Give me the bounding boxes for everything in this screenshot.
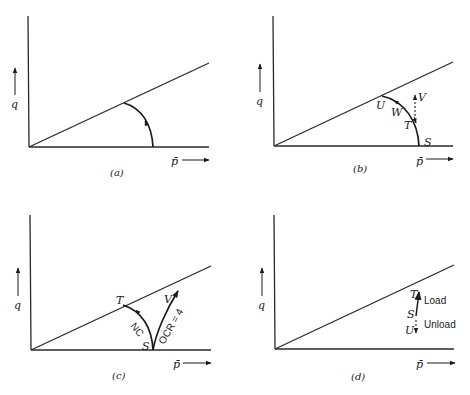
failure-line bbox=[29, 63, 209, 147]
label-s: S bbox=[424, 136, 432, 149]
ocr-arrow-icon bbox=[174, 291, 178, 298]
x-axis-label: p̄ bbox=[171, 155, 178, 168]
label-t: T bbox=[404, 119, 413, 132]
y-axis bbox=[30, 215, 31, 350]
x-axis-label: p̄ bbox=[173, 358, 180, 371]
label-s: S bbox=[407, 308, 415, 321]
y-axis-label: q bbox=[14, 299, 21, 312]
stress-path-arc bbox=[382, 96, 419, 146]
y-axis bbox=[273, 16, 274, 146]
panel-b: U W V T S q p̄ (b) bbox=[256, 16, 453, 174]
y-axis bbox=[28, 16, 29, 147]
x-axis-label: p̄ bbox=[416, 358, 423, 371]
failure-line bbox=[275, 265, 454, 349]
y-axis bbox=[274, 215, 275, 349]
y-axis-label: q bbox=[11, 98, 18, 111]
label-u: U bbox=[405, 324, 415, 337]
label-nc: NC bbox=[128, 320, 146, 338]
y-axis-label: q bbox=[258, 299, 265, 312]
label-v: V bbox=[164, 293, 173, 306]
label-w: W bbox=[391, 106, 404, 119]
panel-caption: (c) bbox=[112, 370, 126, 381]
label-u: U bbox=[376, 99, 386, 112]
stress-path-arc bbox=[124, 103, 153, 147]
y-axis-label: q bbox=[256, 95, 263, 108]
x-axis-label: p̄ bbox=[416, 155, 423, 168]
failure-line bbox=[31, 266, 211, 350]
panel-d: T Load S Unload U q p̄ (d) bbox=[258, 215, 456, 382]
failure-line bbox=[274, 62, 453, 146]
label-s: S bbox=[142, 340, 150, 353]
panel-caption: (d) bbox=[351, 371, 365, 382]
panel-caption: (a) bbox=[110, 167, 124, 178]
panel-c: T V NC OCR = 4 S q p̄ (c) bbox=[14, 215, 211, 381]
label-unload: Unload bbox=[424, 319, 456, 330]
stress-path-figure: q p̄ (a) U W V T S q p̄ (b) T V NC OCR bbox=[0, 0, 470, 395]
panel-caption: (b) bbox=[353, 163, 367, 174]
label-v: V bbox=[418, 91, 427, 104]
panel-a: q p̄ (a) bbox=[11, 16, 209, 178]
label-load: Load bbox=[424, 295, 446, 306]
